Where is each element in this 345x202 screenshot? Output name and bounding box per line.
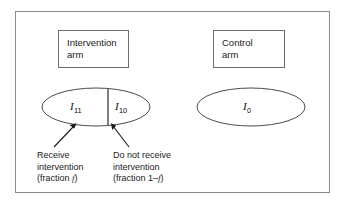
receive-intervention-annotation: Receive intervention (fraction f) [37, 150, 84, 185]
receive-annotation-line3: (fraction f) [37, 173, 84, 185]
intervention-treated-group-label: I11 [70, 100, 81, 112]
not-receive-annotation-line2: intervention [113, 162, 171, 174]
label-i10-subscript: 10 [119, 106, 127, 115]
control-group-label: I0 [243, 100, 251, 112]
control-arm-label-line1: Control [222, 37, 284, 49]
intervention-arm-label-line2: arm [67, 49, 128, 61]
intervention-untreated-group-label: I10 [115, 100, 127, 112]
not-receive-annotation-line1: Do not receive [113, 150, 171, 162]
receive-annotation-line2: intervention [37, 162, 84, 174]
not-receive-intervention-annotation: Do not receive intervention (fraction 1–… [113, 150, 171, 185]
not-receive-fraction-suffix: ) [161, 173, 164, 183]
label-i11-subscript: 11 [74, 106, 81, 115]
not-receive-annotation-line3: (fraction 1–f) [113, 173, 171, 185]
control-arm-box: Control arm [213, 30, 285, 68]
receive-fraction-prefix: (fraction [37, 173, 72, 183]
receive-annotation-line1: Receive [37, 150, 84, 162]
control-arm-label-line2: arm [222, 49, 284, 61]
figure-container: Intervention arm Control arm I11 I10 I0 … [0, 0, 345, 202]
label-i0-subscript: 0 [247, 106, 251, 115]
intervention-arm-box: Intervention arm [58, 30, 129, 68]
receive-fraction-suffix: ) [75, 173, 78, 183]
intervention-arm-label-line1: Intervention [67, 37, 128, 49]
not-receive-fraction-prefix: (fraction 1– [113, 173, 158, 183]
